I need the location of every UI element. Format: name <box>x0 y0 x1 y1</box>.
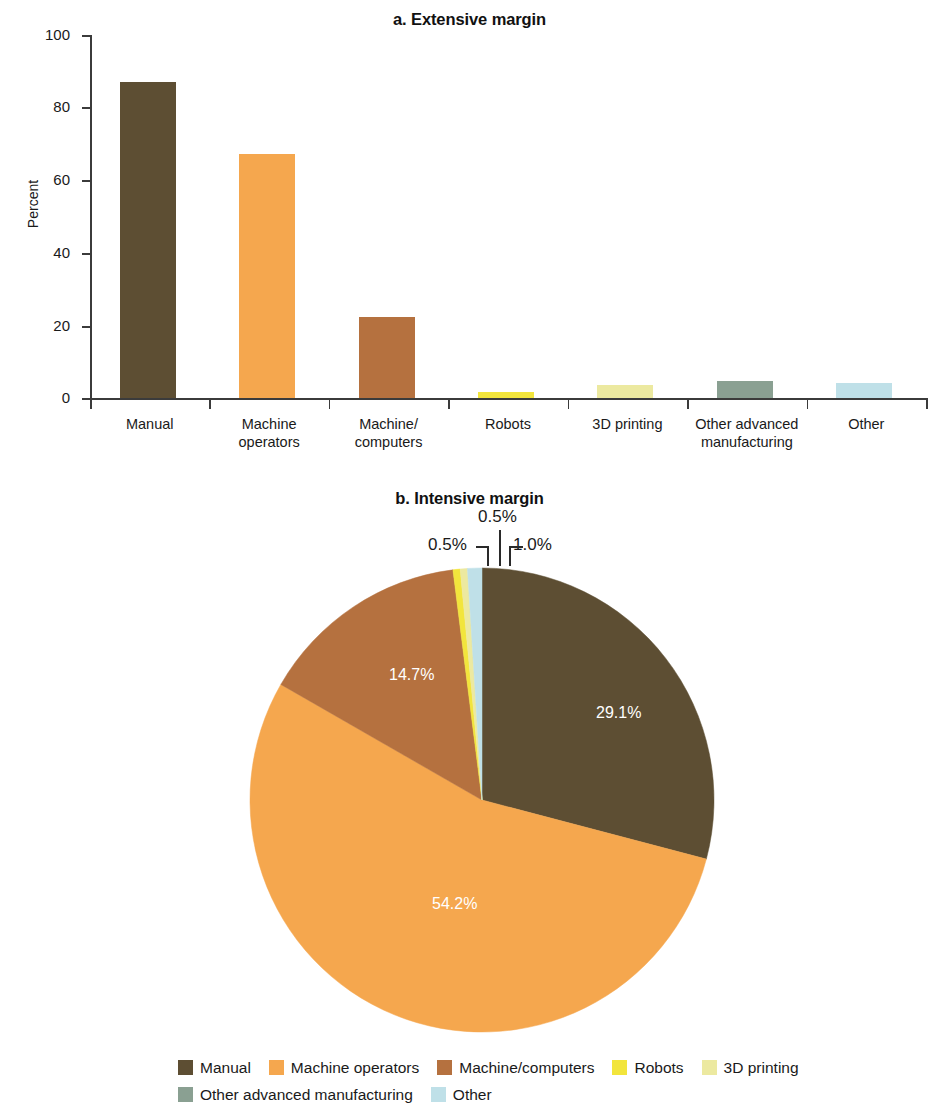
panel-a-title: a. Extensive margin <box>0 10 939 29</box>
legend-item-label: 3D printing <box>724 1059 799 1077</box>
legend-item-label: Other advanced manufacturing <box>200 1086 413 1104</box>
leader-line-3d-printing-vertical <box>499 530 501 566</box>
panel-b-title: b. Intensive margin <box>0 489 939 508</box>
x-tick-label-line: manufacturing <box>687 433 806 451</box>
leader-line-robots-vertical <box>487 546 489 566</box>
x-tick-label-line: Robots <box>448 415 567 433</box>
x-tick-label-line: Manual <box>90 415 209 433</box>
bar-robots <box>478 392 534 398</box>
x-tick-label-line: computers <box>329 433 448 451</box>
y-tick-label-80: 80 <box>26 99 70 114</box>
x-axis-line <box>88 398 926 400</box>
x-tick-label-line: 3D printing <box>568 415 687 433</box>
pie-chart-svg <box>249 567 715 1033</box>
bar-other-advanced-manufacturing <box>717 381 773 398</box>
x-tick-label-line: Machine <box>209 415 328 433</box>
pie-slice-label-machine-operators: 54.2% <box>432 895 477 913</box>
legend-row-1: ManualMachine operatorsMachine/computers… <box>178 1054 938 1081</box>
legend-row-2: Other advanced manufacturingOther <box>178 1081 938 1108</box>
legend-item-machine-operators[interactable]: Machine operators <box>269 1059 419 1077</box>
legend-swatch-icon <box>431 1087 446 1102</box>
bar-machine-computers <box>359 317 415 398</box>
x-tick-mark-6 <box>807 398 809 409</box>
leader-line-other-vertical <box>509 546 511 566</box>
pie-callout-label-robots: 0.5% <box>428 535 467 555</box>
x-tick-mark-5 <box>687 398 689 409</box>
legend-swatch-icon <box>612 1060 627 1075</box>
x-tick-mark-2 <box>329 398 331 409</box>
legend-item-other-advanced-manufacturing[interactable]: Other advanced manufacturing <box>178 1086 413 1104</box>
bar-3d-printing <box>597 385 653 398</box>
x-tick-label-other-advanced-manufacturing: Other advancedmanufacturing <box>687 415 806 451</box>
legend-item-label: Manual <box>200 1059 251 1077</box>
y-axis-label: Percent <box>25 149 41 259</box>
bar-plot-area <box>88 35 924 398</box>
legend-item-other[interactable]: Other <box>431 1086 492 1104</box>
x-tick-label-line: Other <box>807 415 926 433</box>
x-tick-label-line: Machine/ <box>329 415 448 433</box>
legend-item-label: Machine/computers <box>459 1059 594 1077</box>
legend-item-label: Robots <box>634 1059 683 1077</box>
x-tick-mark-3 <box>448 398 450 409</box>
legend-item-3d-printing[interactable]: 3D printing <box>702 1059 799 1077</box>
y-tick-label-100: 100 <box>26 27 70 42</box>
legend-item-machine-computers[interactable]: Machine/computers <box>437 1059 594 1077</box>
x-tick-label-line: Other advanced <box>687 415 806 433</box>
x-tick-label-other: Other <box>807 415 926 433</box>
legend-swatch-icon <box>437 1060 452 1075</box>
extensive-margin-bar-chart-panel: a. Extensive margin Percent 100 80 60 40… <box>0 0 939 480</box>
legend-swatch-icon <box>702 1060 717 1075</box>
leader-line-other-horizontal <box>509 546 523 548</box>
bar-other <box>836 383 892 398</box>
legend-item-manual[interactable]: Manual <box>178 1059 251 1077</box>
pie-slice-label-manual: 29.1% <box>596 704 641 722</box>
bar-manual <box>120 82 176 398</box>
x-tick-label-manual: Manual <box>90 415 209 433</box>
y-tick-label-20: 20 <box>26 318 70 333</box>
x-tick-label-robots: Robots <box>448 415 567 433</box>
pie-callout-label-3d-printing: 0.5% <box>478 507 517 527</box>
y-tick-label-60: 60 <box>26 172 70 187</box>
x-tick-label-machine-computers: Machine/computers <box>329 415 448 451</box>
x-tick-mark-7 <box>926 398 928 409</box>
y-tick-label-0: 0 <box>26 390 70 405</box>
legend-item-label: Other <box>453 1086 492 1104</box>
pie-callout-label-other: 1.0% <box>513 535 552 555</box>
x-tick-label-machine-operators: Machineoperators <box>209 415 328 451</box>
intensive-margin-pie-chart-panel: b. Intensive margin 0.5% 0.5% 1.0% 29.1%… <box>0 480 939 1113</box>
y-tick-label-40: 40 <box>26 245 70 260</box>
x-tick-mark-0 <box>90 398 92 409</box>
legend-item-robots[interactable]: Robots <box>612 1059 683 1077</box>
x-tick-mark-1 <box>209 398 211 409</box>
x-tick-label-3d-printing: 3D printing <box>568 415 687 433</box>
pie-chart <box>249 567 715 1033</box>
legend-swatch-icon <box>269 1060 284 1075</box>
legend-swatch-icon <box>178 1087 193 1102</box>
x-tick-mark-4 <box>568 398 570 409</box>
legend-item-label: Machine operators <box>291 1059 419 1077</box>
x-tick-label-line: operators <box>209 433 328 451</box>
pie-slice-label-machine-computers: 14.7% <box>389 666 434 684</box>
pie-chart-legend: ManualMachine operatorsMachine/computers… <box>178 1054 938 1108</box>
bar-machine-operators <box>239 154 295 398</box>
legend-swatch-icon <box>178 1060 193 1075</box>
